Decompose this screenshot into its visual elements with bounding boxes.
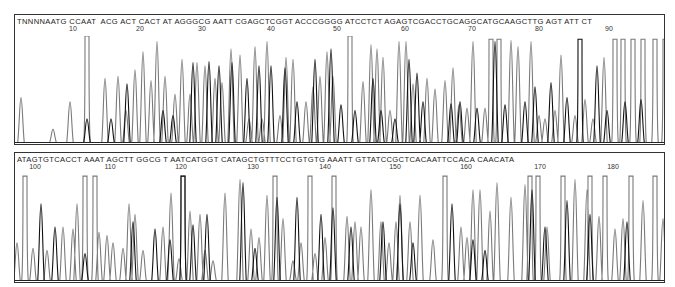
position-tick-label: 40 bbox=[267, 25, 275, 32]
position-tick-label: 160 bbox=[460, 163, 472, 170]
position-ticks-top: 102030405060708090 bbox=[15, 25, 664, 35]
chromatogram-panel-bottom: ATAGTGTCACCT AAAT AGCTT GGCG T AATCATGGT… bbox=[14, 152, 665, 283]
position-tick-label: 140 bbox=[319, 163, 331, 170]
trace-plot-top bbox=[15, 36, 664, 144]
position-tick-label: 50 bbox=[333, 25, 341, 32]
position-tick-label: 20 bbox=[136, 25, 144, 32]
chromatogram-panel-top: TNNNNAATG CCAAT ACG ACT CACT AT AGGGCG A… bbox=[14, 14, 665, 145]
position-tick-label: 170 bbox=[534, 163, 546, 170]
position-tick-label: 60 bbox=[401, 25, 409, 32]
position-tick-label: 110 bbox=[104, 163, 115, 170]
position-tick-label: 120 bbox=[175, 163, 187, 170]
position-tick-label: 80 bbox=[535, 25, 543, 32]
trace-gray bbox=[15, 176, 664, 280]
trace-gray bbox=[18, 36, 664, 142]
position-tick-label: 150 bbox=[389, 163, 401, 170]
position-tick-label: 70 bbox=[468, 25, 476, 32]
position-ticks-bottom: 100110120130140150160170180 bbox=[15, 163, 664, 173]
position-tick-label: 10 bbox=[69, 25, 77, 32]
trace-plot-bottom bbox=[15, 174, 664, 282]
position-tick-label: 130 bbox=[247, 163, 259, 170]
position-tick-label: 180 bbox=[607, 163, 619, 170]
position-tick-label: 100 bbox=[29, 163, 41, 170]
position-tick-label: 30 bbox=[198, 25, 206, 32]
position-tick-label: 90 bbox=[605, 25, 613, 32]
